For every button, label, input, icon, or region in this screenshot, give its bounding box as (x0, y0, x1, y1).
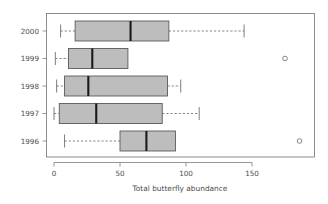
outlier-1996-0 (297, 139, 302, 144)
box-1997 (59, 104, 162, 124)
x-tick-label-50: 50 (115, 169, 125, 178)
y-category-label-1999: 1999 (21, 54, 40, 63)
outlier-1999-0 (283, 56, 288, 61)
box-1996 (120, 131, 175, 151)
box-series-layer (54, 21, 302, 151)
box-group-2000 (61, 21, 244, 41)
x-tick-label-150: 150 (245, 169, 259, 178)
x-tick-label-0: 0 (52, 169, 57, 178)
x-axis-title: Total butterfly abundance (132, 184, 228, 193)
x-tick-label-100: 100 (179, 169, 193, 178)
y-category-label-1998: 1998 (21, 82, 40, 91)
box-group-1996 (65, 131, 302, 151)
box-group-1997 (54, 104, 199, 124)
box-2000 (75, 21, 169, 41)
box-group-1998 (57, 76, 181, 96)
box-group-1999 (55, 49, 287, 69)
y-category-label-2000: 2000 (21, 27, 40, 36)
box-1999 (69, 49, 128, 69)
y-category-label-1996: 1996 (21, 137, 40, 146)
box-1998 (65, 76, 168, 96)
y-category-label-1997: 1997 (21, 109, 39, 118)
boxplot-figure: 0 50 100 150 Total butterfly abundance 2… (0, 0, 328, 204)
boxplot-canvas: 0 50 100 150 Total butterfly abundance 2… (0, 0, 328, 204)
